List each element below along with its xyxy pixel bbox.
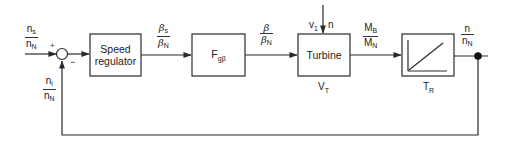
summing-junction <box>57 49 68 60</box>
f-block-label: Fgβ <box>192 48 245 65</box>
input-num-sub: s <box>32 28 36 35</box>
f-output-label: β βN <box>260 22 273 48</box>
speed-regulator-line1: Speed <box>90 43 141 55</box>
turbine-out-num-sub: B <box>373 27 378 34</box>
input-den-sub: N <box>32 43 37 50</box>
vt-sub: T <box>325 87 329 94</box>
output-signal-label: n nN <box>461 23 474 49</box>
vt-main: V <box>318 81 325 92</box>
f-out-den-sub: N <box>267 39 272 46</box>
f-out-num: β <box>264 22 270 33</box>
turbine-out-num: M <box>364 22 372 33</box>
input-signal-label: ns nN <box>25 23 38 52</box>
regulator-output-label: βs βN <box>157 22 170 51</box>
speed-regulator-line2: regulator <box>90 55 141 67</box>
v-sub: 1 <box>314 25 318 32</box>
turbine-input-n: n <box>328 20 334 30</box>
output-takeoff-dot <box>474 52 482 60</box>
turbine-label: Turbine <box>298 49 350 61</box>
feedback-num-sub: i <box>51 80 53 87</box>
speed-regulator-label: Speed regulator <box>90 43 141 67</box>
reg-out-den-sub: N <box>164 42 169 49</box>
feedback-den-sub: N <box>50 95 55 102</box>
turbine-input-v1: v1 <box>309 20 318 32</box>
reg-out-num-sub: s <box>165 27 169 34</box>
output-num: n <box>465 23 471 34</box>
minus-sign: − <box>70 58 75 67</box>
output-den-sub: N <box>468 40 473 47</box>
plus-sign: + <box>50 42 55 50</box>
turbine-vt-label: VT <box>318 82 329 94</box>
integrator-tr-label: TR <box>423 82 434 94</box>
tr-sub: R <box>429 87 434 94</box>
f-label-sub: gβ <box>218 55 226 62</box>
turbine-out-den-sub: N <box>372 42 377 49</box>
feedback-signal-label: ni nN <box>43 75 56 104</box>
turbine-output-label: MB MN <box>363 22 378 51</box>
block-diagram <box>0 0 508 145</box>
